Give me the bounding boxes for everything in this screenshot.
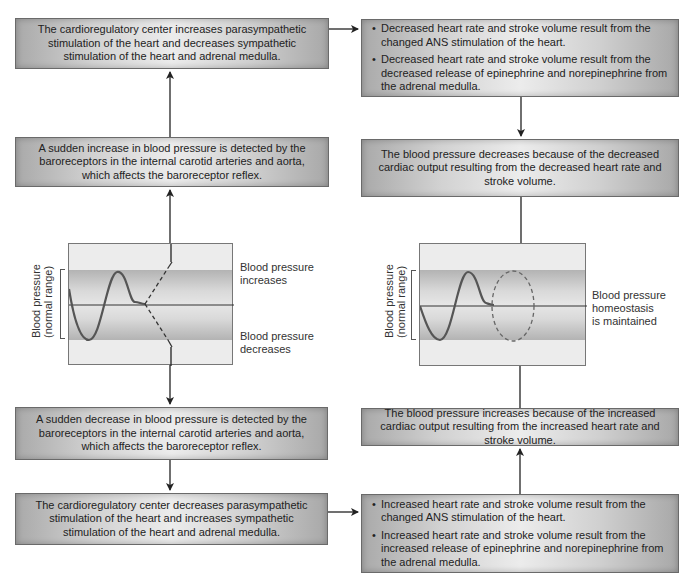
bp-increases-line1: Blood pressure — [240, 261, 314, 274]
left-graph-y-axis-label: Blood pressure (normal range) — [30, 268, 54, 338]
bp-decrease-detected-text: A sudden decrease in blood pressure is d… — [24, 413, 319, 454]
left-bp-curve — [69, 244, 234, 366]
bp-homeostasis-label: Blood pressure homeostasis is maintained — [592, 289, 666, 328]
right-bp-curve — [420, 244, 587, 367]
bp-decreases-result-text: The blood pressure decreases because of … — [370, 148, 670, 189]
parasympathetic-increase-text: The cardioregulatory center increases pa… — [24, 23, 320, 64]
y-axis-label-line1: Blood pressure — [383, 268, 395, 338]
right-bp-graph — [419, 243, 586, 366]
increased-heart-rate-box: Increased heart rate and stroke volume r… — [361, 494, 679, 573]
parasympathetic-increase-box: The cardioregulatory center increases pa… — [15, 18, 329, 69]
homeostasis-line1: Blood pressure — [592, 289, 666, 302]
increased-effect-item: Increased heart rate and stroke volume r… — [372, 498, 670, 525]
bp-increases-result-text: The blood pressure increases because of … — [370, 407, 670, 448]
increased-effects-list: Increased heart rate and stroke volume r… — [372, 498, 670, 570]
bp-decrease-detected-box: A sudden decrease in blood pressure is d… — [15, 407, 328, 460]
y-axis-label-line1: Blood pressure — [30, 268, 42, 338]
bp-decreases-line1: Blood pressure — [240, 330, 314, 343]
increased-effect-item: Increased heart rate and stroke volume r… — [372, 529, 670, 570]
parasympathetic-decrease-box: The cardioregulatory center decreases pa… — [15, 493, 328, 545]
bp-decreases-label: Blood pressure decreases — [240, 330, 314, 356]
bp-decreases-result-box: The blood pressure decreases because of … — [361, 139, 679, 197]
homeostasis-line2: homeostasis — [592, 302, 666, 315]
right-graph-y-axis-label: Blood pressure (normal range) — [383, 268, 407, 338]
bp-increase-detected-text: A sudden increase in blood pressure is d… — [24, 142, 320, 183]
bp-increases-line2: increases — [240, 274, 314, 287]
y-axis-label-line2: (normal range) — [395, 268, 407, 338]
bp-increase-detected-box: A sudden increase in blood pressure is d… — [15, 137, 329, 187]
homeostasis-line3: is maintained — [592, 315, 666, 328]
decreased-effects-list: Decreased heart rate and stroke volume r… — [372, 22, 670, 94]
decreased-effect-item: Decreased heart rate and stroke volume r… — [372, 22, 670, 49]
bp-increases-label: Blood pressure increases — [240, 261, 314, 287]
right-normal-range-bracket — [411, 270, 416, 340]
decreased-heart-rate-box: Decreased heart rate and stroke volume r… — [361, 19, 679, 97]
bp-increases-result-box: The blood pressure increases because of … — [361, 408, 679, 446]
left-normal-range-bracket — [60, 269, 65, 339]
left-bp-graph — [68, 243, 233, 365]
parasympathetic-decrease-text: The cardioregulatory center decreases pa… — [24, 499, 319, 540]
bp-decreases-line2: decreases — [240, 343, 314, 356]
decreased-effect-item: Decreased heart rate and stroke volume r… — [372, 53, 670, 94]
y-axis-label-line2: (normal range) — [42, 268, 54, 338]
